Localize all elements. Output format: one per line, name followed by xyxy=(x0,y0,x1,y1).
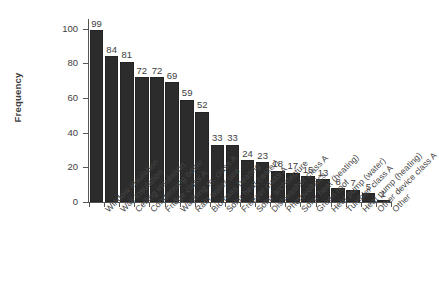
y-tick-mark xyxy=(83,133,88,134)
y-tick-mark xyxy=(83,98,88,99)
bar-value-label: 99 xyxy=(86,18,108,29)
x-tick-mark xyxy=(89,203,90,207)
bar xyxy=(105,56,119,202)
bar-value-label: 52 xyxy=(191,99,213,110)
y-tick-mark xyxy=(83,202,88,203)
y-tick-label: 20 xyxy=(38,161,78,172)
y-tick-label: 100 xyxy=(38,23,78,34)
bar xyxy=(90,30,104,202)
y-tick-label: 60 xyxy=(38,92,78,103)
bar-value-label: 69 xyxy=(161,70,183,81)
bar-value-label: 81 xyxy=(116,49,138,60)
y-tick-mark xyxy=(83,167,88,168)
bar-value-label: 33 xyxy=(221,132,243,143)
y-tick-mark xyxy=(83,63,88,64)
y-tick-label: 40 xyxy=(38,127,78,138)
y-tick-label: 80 xyxy=(38,57,78,68)
y-axis-title: Frequency xyxy=(12,48,23,148)
bar-value-label: 59 xyxy=(176,87,198,98)
y-tick-label: 0 xyxy=(38,196,78,207)
